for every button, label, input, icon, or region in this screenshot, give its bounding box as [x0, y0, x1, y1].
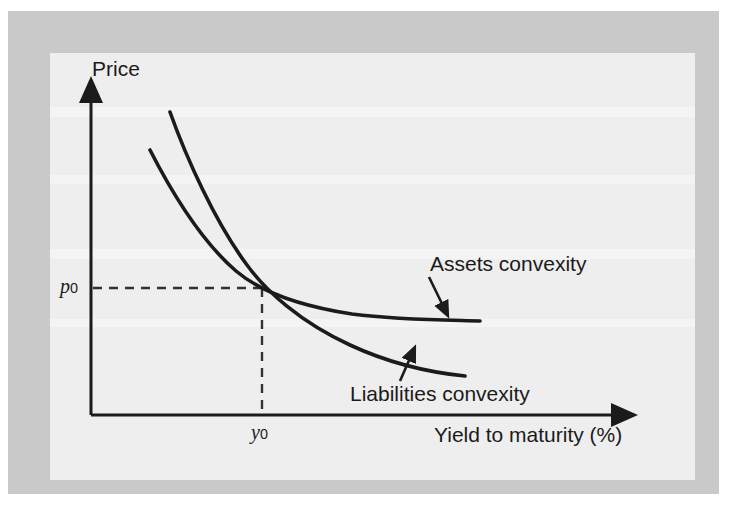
price-tick-subscript: 0 [70, 280, 78, 296]
assets-convexity-arrow-icon [429, 277, 447, 314]
figure-root: Price Yield to maturity (%) Assets conve… [0, 0, 733, 509]
y-axis-tick-label: p0 [60, 276, 78, 296]
price-tick-variable: p [60, 275, 70, 297]
assets-convexity-annotation-label: Assets convexity [430, 253, 586, 274]
yield-tick-variable: y [251, 421, 260, 443]
assets-convexity-curve [150, 150, 480, 321]
liabilities-convexity-annotation-label: Liabilities convexity [350, 383, 530, 404]
x-axis-label: Yield to maturity (%) [434, 424, 622, 445]
y-axis-label: Price [92, 58, 140, 79]
x-axis-tick-label: y0 [251, 422, 268, 442]
liabilities-convexity-curve [170, 112, 465, 376]
yield-tick-subscript: 0 [260, 426, 268, 442]
